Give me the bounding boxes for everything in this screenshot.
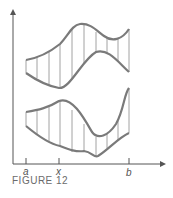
bottom-region-hatching bbox=[26, 88, 129, 156]
x-label-b: b bbox=[126, 167, 132, 178]
bottom-region-upper-curve bbox=[26, 88, 129, 136]
top-region-lower-curve bbox=[26, 51, 129, 88]
figure-caption: FIGURE 12 bbox=[12, 175, 68, 186]
bottom-region-lower-curve bbox=[26, 126, 129, 156]
top-region-upper-curve bbox=[26, 24, 129, 60]
